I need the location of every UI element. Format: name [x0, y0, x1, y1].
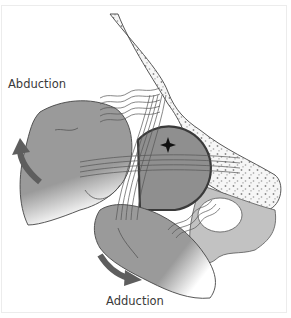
hip-joint-illustration	[0, 0, 291, 318]
abduction-label: Abduction	[8, 77, 66, 91]
adduction-label: Adduction	[106, 294, 164, 308]
femoral-head	[138, 126, 211, 210]
obturator-foramen	[198, 198, 242, 232]
